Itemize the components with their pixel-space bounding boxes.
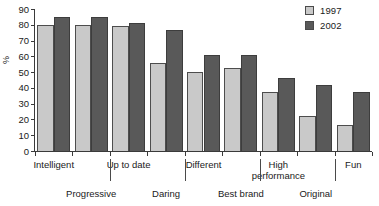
y-axis-tick-label: 10 [7,131,29,140]
x-axis-tick-mark [185,152,186,156]
x-axis-category-label: Fun [316,159,379,170]
x-axis-category-label: Up to date [92,159,166,170]
label-group-separator [110,159,111,181]
x-axis-category-label: Different [167,159,241,170]
x-axis-tick-mark [35,152,36,156]
bar [112,26,129,151]
bar [91,17,108,151]
x-axis-category-label: High performance [241,159,315,181]
bar [204,55,221,151]
bar [166,30,183,151]
x-axis-tick-mark [335,152,336,156]
x-axis-category-label: Daring [129,188,203,199]
bar [150,63,167,151]
x-axis-tick-mark [372,152,373,156]
bar [337,125,354,151]
bar [75,25,92,151]
bar [54,17,71,151]
bar [299,116,316,152]
y-axis-tick-label: 0 [7,147,29,156]
x-axis-tick-mark [147,152,148,156]
bar-chart: 1997 2002 % 0102030405060708090 Intellig… [0,0,379,206]
bar [37,25,54,151]
x-axis-line [34,151,372,152]
bar [129,23,146,151]
label-group-separator [260,159,261,181]
y-axis-tick-label: 80 [7,20,29,29]
y-axis-tick-label: 60 [7,52,29,61]
y-axis-tick-label: 90 [7,5,29,14]
y-axis-tick-label: 40 [7,83,29,92]
y-axis-tick-label: 20 [7,115,29,124]
x-axis-category-label: Best brand [204,188,278,199]
bar [262,92,279,151]
y-axis-tick-label: 30 [7,99,29,108]
label-group-separator [335,159,336,181]
y-axis-tick-labels: 0102030405060708090 [0,0,29,206]
plot-area [35,9,372,151]
x-axis-category-label: Intelligent [17,159,91,170]
bar [316,85,333,151]
bar [241,55,258,151]
x-axis-tick-mark [260,152,261,156]
x-axis-category-label: Original [279,188,353,199]
x-axis-tick-mark [72,152,73,156]
bar [224,68,241,151]
bar [353,92,370,151]
x-axis-tick-mark [297,152,298,156]
bar [278,78,295,151]
bar [187,72,204,151]
x-axis-tick-mark [222,152,223,156]
x-axis-category-label: Progressive [54,188,128,199]
label-group-separator [185,159,186,181]
y-axis-tick-label: 50 [7,68,29,77]
x-axis-tick-mark [110,152,111,156]
y-axis-tick-label: 70 [7,36,29,45]
